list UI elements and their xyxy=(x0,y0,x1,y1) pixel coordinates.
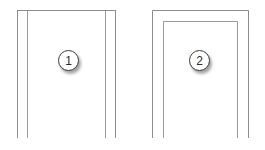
callout-badge-1[interactable]: 1 xyxy=(58,50,79,71)
diagram-canvas: 1 2 xyxy=(0,0,265,150)
callout-badge-2-label: 2 xyxy=(196,54,203,66)
right-profile-section xyxy=(153,11,249,139)
callout-badge-2[interactable]: 2 xyxy=(189,50,210,71)
left-profile-section xyxy=(17,10,116,138)
right-profile-inner-outline xyxy=(164,22,238,139)
profile-drawing xyxy=(0,0,265,150)
callout-badge-1-label: 1 xyxy=(65,54,72,66)
right-profile-outer-outline xyxy=(153,11,249,139)
